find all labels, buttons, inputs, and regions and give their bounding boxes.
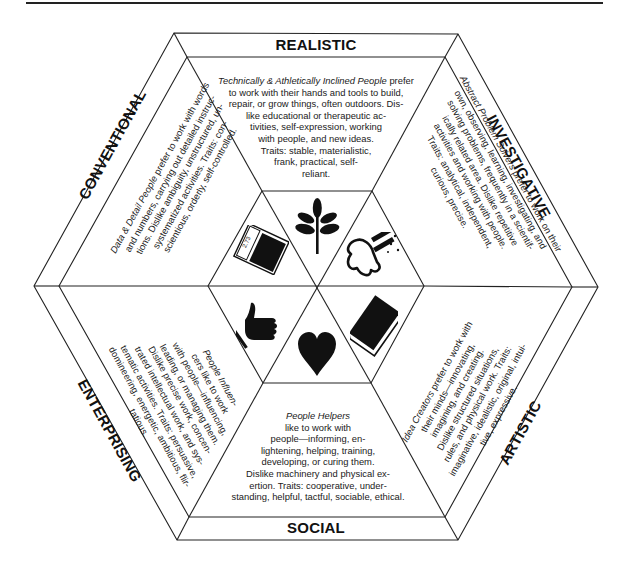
flasks-icon [343,232,401,284]
thumbs-up-icon [236,300,282,352]
plant-icon [294,198,340,256]
calculator-icon: 2.73 [233,225,289,275]
social-label: SOCIAL [266,519,366,536]
holland-hexagon-diagram: REALISTIC SOCIAL INVESTIGATIVE ARTISTIC … [0,0,629,575]
heart-icon [296,330,338,378]
book-icon [350,292,398,358]
realistic-label: REALISTIC [266,36,366,53]
